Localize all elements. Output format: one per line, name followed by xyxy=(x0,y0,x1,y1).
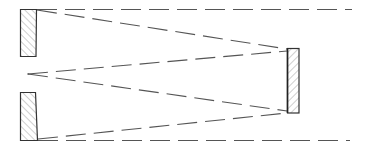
focal-point xyxy=(27,73,29,75)
upper-focus-beam xyxy=(28,51,287,74)
diagram-canvas xyxy=(0,0,367,154)
top-reflected-beam xyxy=(37,10,287,49)
bottom-reflected-beam xyxy=(38,113,287,139)
optical-diagram xyxy=(0,0,367,154)
mirror-top-left xyxy=(21,10,37,57)
beam-lines xyxy=(28,10,352,141)
mirror-bottom-left xyxy=(21,93,38,141)
lower-focus-beam xyxy=(28,74,287,111)
mirror-right xyxy=(288,49,300,114)
